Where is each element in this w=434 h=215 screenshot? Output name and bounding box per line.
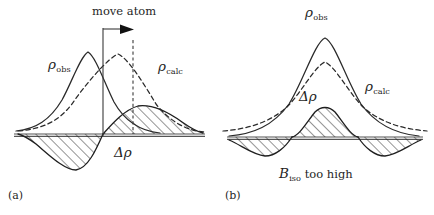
panel-b: ρobs ρcalc Δρ Bisotoo high (b) [217,0,434,215]
delta-rho-label-a: Δρ [114,146,132,160]
delta-rho-center-hump-b [287,100,365,142]
rho-calc-label-b: ρcalc [365,80,390,94]
panel-a: move atom ρobs ρcalc Δρ (a) [0,0,217,215]
panel-b-graphic [217,0,434,215]
delta-rho-negative-lobe-a [10,130,210,178]
b-iso-caption-b: Bisotoo high [279,165,353,181]
move-atom-label: move atom [92,6,156,18]
panel-tag-b: (b) [225,190,241,201]
b-iso-subscript: iso [289,173,301,183]
rho-obs-symbol-b: ρ [305,4,313,20]
rho-calc-subscript-a: calc [166,66,183,76]
rho-obs-symbol-a: ρ [48,56,56,72]
figure-root: move atom ρobs ρcalc Δρ (a) [0,0,434,215]
panel-tag-a: (a) [8,190,23,201]
delta-rho-label-b: Δρ [299,90,317,104]
rho-obs-label-a: ρobs [48,58,70,72]
b-iso-symbol: B [279,165,289,181]
rho-calc-symbol-b: ρ [365,78,373,94]
rho-calc-label-a: ρcalc [158,60,183,74]
rho-obs-label-b: ρobs [305,6,327,20]
b-iso-caption-rest: too high [305,167,353,181]
move-atom-arrow-a [103,25,134,35]
panel-a-graphic [0,0,217,215]
rho-calc-symbol-a: ρ [158,58,166,74]
rho-calc-subscript-b: calc [373,86,390,96]
rho-obs-subscript-a: obs [56,64,70,74]
rho-obs-subscript-b: obs [313,12,327,22]
